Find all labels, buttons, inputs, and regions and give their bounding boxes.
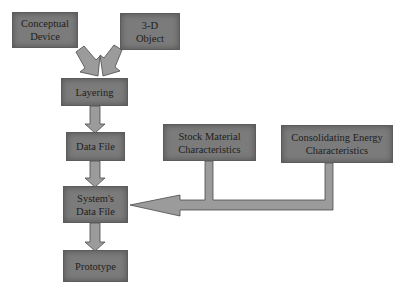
node-label: 3-D <box>136 19 164 32</box>
node-label: Layering <box>76 86 114 99</box>
node-label: Characteristics <box>178 143 240 156</box>
node-3d-object: 3-DObject <box>120 13 180 50</box>
node-consolidating-energy: Consolidating EnergyCharacteristics <box>281 125 393 163</box>
node-layering: Layering <box>61 78 128 106</box>
node-data-file: Data File <box>66 132 125 161</box>
node-label: Stock Material <box>178 130 240 143</box>
node-label: Prototype <box>75 260 116 273</box>
node-conceptual-device: ConceptualDevice <box>12 12 78 48</box>
node-label: Characteristics <box>291 144 383 157</box>
node-label: Data File <box>76 205 115 218</box>
arrow-object-to-layering <box>100 45 122 76</box>
arrow-layering-to-datafile <box>85 106 105 133</box>
arrow-systems-to-prototype <box>85 223 105 251</box>
node-label: Consolidating Energy <box>291 131 383 144</box>
node-stock-material: Stock MaterialCharacteristics <box>163 124 256 161</box>
node-prototype: Prototype <box>63 250 128 282</box>
node-label: Data File <box>76 140 115 153</box>
node-label: Device <box>21 30 69 43</box>
arrow-characteristics-to-systems <box>130 161 333 216</box>
node-systems-data-file: System'sData File <box>63 186 128 223</box>
node-label: Conceptual <box>21 17 69 30</box>
node-label: Object <box>136 32 164 45</box>
node-label: System's <box>76 192 115 205</box>
arrow-conceptual-to-layering <box>76 46 100 76</box>
arrow-datafile-to-systems <box>85 161 105 187</box>
